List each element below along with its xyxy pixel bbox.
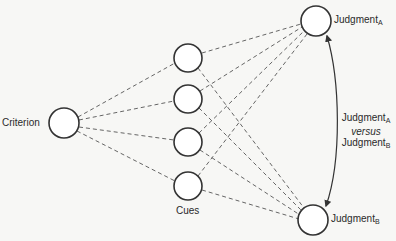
criterion-label: Criterion (2, 117, 40, 128)
criterion-cue-links (77, 63, 175, 181)
judgment-b-label: JudgmentB (331, 213, 380, 227)
judgment-a-node (301, 6, 331, 36)
comparison-label: JudgmentA versus JudgmentB (340, 110, 392, 153)
judgment-b-subscript: B (375, 218, 380, 225)
cue-judgment-b-links (198, 68, 304, 219)
comparison-line-1-subscript: A (386, 117, 391, 124)
judgment-a-subscript: A (378, 19, 383, 26)
comparison-arrow (326, 36, 337, 206)
comparison-line-3-text: Judgment (342, 137, 386, 148)
comparison-line-1-text: Judgment (342, 112, 386, 123)
comparison-line-3: JudgmentB (340, 137, 392, 151)
lens-model-diagram: Criterion Cues JudgmentA JudgmentB Judgm… (0, 0, 396, 241)
cue-node-4 (174, 172, 202, 200)
criterion-label-text: Criterion (2, 117, 40, 128)
judgment-b-node (298, 205, 328, 235)
comparison-line-3-subscript: B (386, 142, 391, 149)
judgment-a-label-text: Judgment (334, 14, 378, 25)
cues-label: Cues (176, 205, 199, 216)
cue-node-2 (174, 85, 202, 113)
cues-label-text: Cues (176, 205, 199, 216)
criterion-node (49, 108, 79, 138)
judgment-b-label-text: Judgment (331, 213, 375, 224)
judgment-a-label: JudgmentA (334, 14, 383, 28)
comparison-line-1: JudgmentA (340, 112, 392, 126)
cue-node-1 (174, 44, 202, 72)
cue-node-3 (174, 128, 202, 156)
comparison-versus: versus (340, 126, 392, 137)
cue-judgment-a-links (198, 24, 307, 176)
